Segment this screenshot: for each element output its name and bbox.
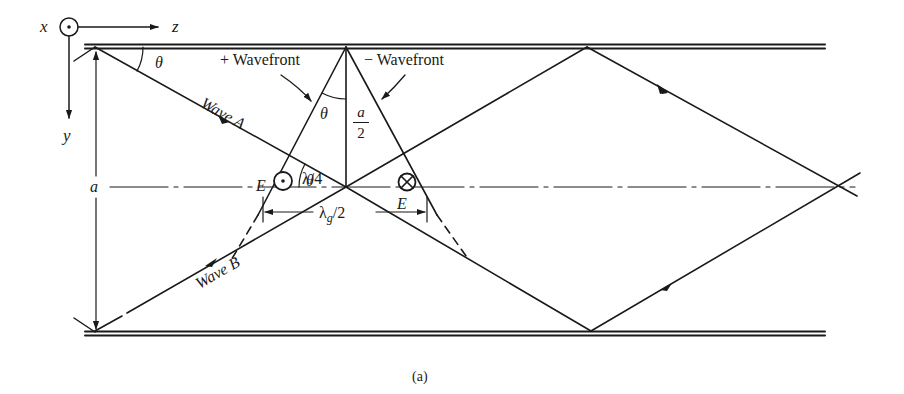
- minus-wavefront-pointer: [382, 75, 405, 99]
- lambda-symbol: λ: [319, 204, 327, 221]
- plus-wavefront-label: + Wavefront: [220, 52, 300, 68]
- plus-wavefront-pointer: [281, 75, 311, 101]
- e-left-label: E: [256, 178, 266, 194]
- lambda-g-half-label: λg/2: [319, 205, 345, 224]
- figure-caption: (a): [412, 370, 428, 384]
- bottom-wall: [85, 332, 825, 336]
- diagram-lines: [0, 0, 904, 394]
- minus-wavefront-label: − Wavefront: [364, 52, 444, 68]
- theta-label-center: θ: [306, 173, 314, 189]
- axis-label-x: x: [40, 18, 48, 35]
- wave-a-ray: [95, 47, 860, 331]
- e-field-in-icon: [399, 174, 416, 191]
- top-wall: [85, 45, 825, 49]
- e-field-out-icon: [274, 172, 292, 190]
- coordinate-axes: [60, 18, 158, 118]
- theta-arc-apex: [322, 93, 346, 99]
- a-half-fraction: a 2: [353, 104, 369, 142]
- waveguide-diagram: x z y θ + Wavefront − Wavefront Wave A W…: [0, 0, 904, 394]
- lambda-divisor: /2: [333, 204, 345, 221]
- wave-b-ray: [95, 47, 857, 331]
- a-half-denominator: 2: [353, 123, 369, 142]
- theta-arc-top-left: [137, 47, 143, 71]
- a-half-numerator: a: [353, 104, 369, 123]
- axis-label-y: y: [63, 127, 71, 144]
- theta-label-top-left: θ: [155, 55, 163, 71]
- a-height-label: a: [89, 179, 99, 195]
- e-right-label: E: [397, 196, 407, 212]
- axis-label-z: z: [172, 18, 179, 35]
- theta-label-apex: θ: [320, 106, 328, 122]
